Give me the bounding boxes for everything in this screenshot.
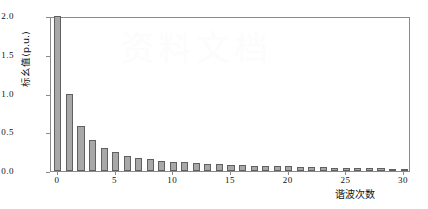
bar [308,167,315,171]
y-tick-label: 0.0 [0,166,14,176]
bar [320,167,327,171]
bar [251,166,258,172]
bar [158,161,165,171]
x-tick-label: 0 [42,175,72,185]
y-tick-label: 1.5 [0,50,14,60]
bar [274,166,281,171]
bar [331,168,338,171]
y-tick-label: 0.5 [0,127,14,137]
bar [181,162,188,171]
x-tick-mark [57,171,58,175]
bar [297,167,304,171]
bar [77,126,84,171]
x-tick-mark [230,171,231,175]
x-tick-label: 10 [157,175,187,185]
x-tick-label: 5 [100,175,130,185]
bar [112,152,119,171]
bar [147,159,154,171]
bar [354,168,361,171]
bar-series [51,18,409,171]
y-tick-label: 2.0 [0,11,14,21]
x-tick-mark [288,171,289,175]
x-tick-label: 15 [215,175,245,185]
bar [204,164,211,171]
bar [193,163,200,171]
bar [377,168,384,171]
y-axis-label: 标幺值(p.u.) [18,4,32,114]
x-tick-label: 20 [273,175,303,185]
bar [124,156,131,172]
x-axis-label: 谐波次数 [300,186,410,201]
x-tick-mark [115,171,116,175]
bar [135,158,142,171]
x-tick-label: 30 [388,175,418,185]
bar [89,140,96,171]
x-tick-mark [403,171,404,175]
x-tick-label: 25 [330,175,360,185]
y-tick-label: 1.0 [0,89,14,99]
bar [54,16,61,171]
bar [262,166,269,171]
bar [389,169,396,171]
x-tick-mark [172,171,173,175]
bar [239,165,246,171]
bar [170,162,177,171]
plot-area [50,17,410,172]
bar [216,164,223,171]
x-tick-mark [345,171,346,175]
bar [401,169,408,171]
y-tick-mark [46,172,50,173]
bar [101,148,108,171]
bar [366,168,373,171]
bar [66,94,73,172]
harmonic-spectrum-figure: 资料文档 标幺值(p.u.) 0.00.51.01.52.0 051015202… [0,0,428,209]
